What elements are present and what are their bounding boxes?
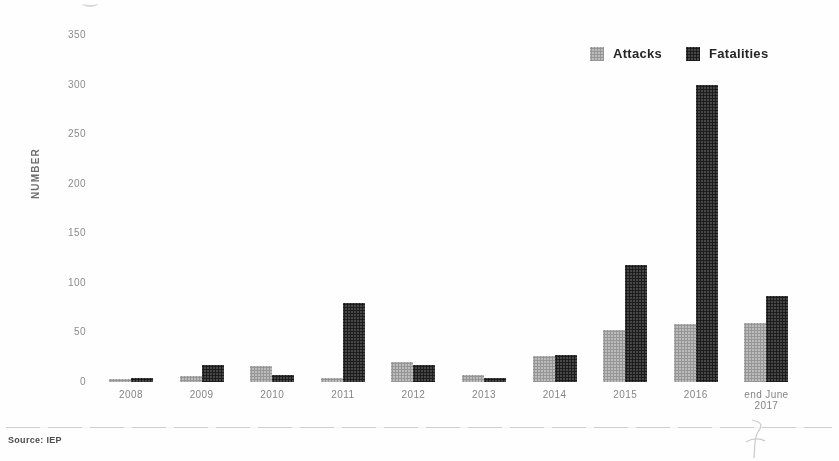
chart-plot-area: 0501001502002503003502008200920102011201… <box>0 0 839 461</box>
x-tick-label-2014: 2014 <box>521 389 589 400</box>
x-tick-label-2010: 2010 <box>238 389 306 400</box>
x-tick-label-2011: 2011 <box>309 389 377 400</box>
fatalities-bar-2011 <box>343 303 365 382</box>
y-tick-label-300: 300 <box>56 79 86 90</box>
fatalities-bar-2015 <box>625 265 647 382</box>
y-tick-label-50: 50 <box>56 326 86 337</box>
x-tick-label-2009: 2009 <box>168 389 236 400</box>
attacks-bar-end-June-2017 <box>744 323 766 382</box>
x-tick-label-2012: 2012 <box>379 389 447 400</box>
y-tick-label-100: 100 <box>56 277 86 288</box>
fatalities-bar-2008 <box>131 378 153 382</box>
attacks-bar-2015 <box>603 330 625 382</box>
attacks-bar-2016 <box>674 324 696 382</box>
footer-divider <box>6 427 832 428</box>
attacks-bar-2012 <box>391 362 413 382</box>
attacks-bar-2010 <box>250 366 272 382</box>
attacks-bar-2013 <box>462 375 484 382</box>
x-tick-label-2015: 2015 <box>591 389 659 400</box>
fatalities-bar-2014 <box>555 355 577 382</box>
fatalities-bar-2016 <box>696 85 718 382</box>
fatalities-bar-2010 <box>272 375 294 382</box>
attacks-bar-2008 <box>109 379 131 382</box>
x-tick-label-2013: 2013 <box>450 389 518 400</box>
source-text: Source: IEP <box>8 435 62 445</box>
scanned-bar-chart-page: NUMBER AttacksFatalities 050100150200250… <box>0 0 839 461</box>
attacks-bar-2009 <box>180 376 202 382</box>
pencil-mark-artifact <box>738 418 772 460</box>
fatalities-bar-2013 <box>484 378 506 382</box>
attacks-bar-2014 <box>533 356 555 382</box>
y-tick-label-200: 200 <box>56 178 86 189</box>
fatalities-bar-2009 <box>202 365 224 382</box>
fatalities-bar-2012 <box>413 365 435 382</box>
x-tick-label-2016: 2016 <box>662 389 730 400</box>
y-tick-label-350: 350 <box>56 29 86 40</box>
y-tick-label-150: 150 <box>56 227 86 238</box>
x-tick-label-end-June-2017: end June 2017 <box>732 389 800 411</box>
attacks-bar-2011 <box>321 378 343 382</box>
fatalities-bar-end-June-2017 <box>766 296 788 382</box>
x-tick-label-2008: 2008 <box>97 389 165 400</box>
y-tick-label-0: 0 <box>56 376 86 387</box>
y-tick-label-250: 250 <box>56 128 86 139</box>
